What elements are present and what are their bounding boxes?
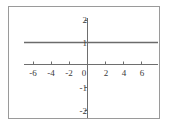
x-tick-label-neg2: -2 xyxy=(65,69,73,78)
plot-axes-canvas xyxy=(0,0,174,128)
y-tick-label-neg2: -2 xyxy=(76,107,87,116)
y-tick-label-pos2: 2 xyxy=(79,16,87,25)
x-tick-label-pos4: 4 xyxy=(122,69,127,78)
x-tick-label-zero: 0 xyxy=(82,69,87,78)
y-tick-label-neg1: -1 xyxy=(76,84,87,93)
x-tick-label-neg6: -6 xyxy=(29,69,37,78)
x-tick-label-neg4: -4 xyxy=(47,69,55,78)
constant-function-plot: -6 -4 -2 0 2 4 6 2 1 -1 -2 xyxy=(0,0,174,128)
x-tick-label-pos6: 6 xyxy=(140,69,145,78)
y-tick-label-pos1: 1 xyxy=(79,39,87,48)
x-tick-label-pos2: 2 xyxy=(104,69,109,78)
